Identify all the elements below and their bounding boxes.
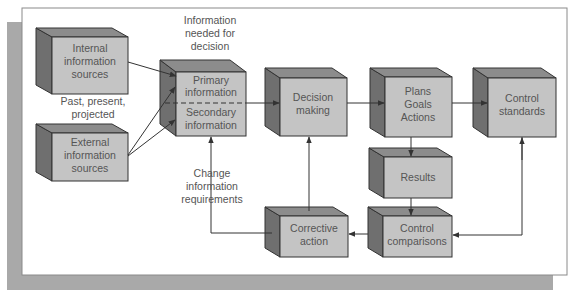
label-info-needed-2: needed for (185, 27, 236, 39)
box-corrective-action: Corrective action (265, 207, 348, 257)
box-external-sources: External information sources (36, 124, 128, 181)
box-corrective-line2: action (300, 235, 328, 247)
box-plans-line1: Plans (405, 85, 431, 97)
box-plans-line3: Actions (401, 111, 435, 123)
box-secondary-line1: Secondary (186, 106, 237, 118)
box-information: Primary information Secondary informatio… (160, 60, 246, 136)
box-internal-sources: Internal information sources (36, 28, 128, 94)
label-info-needed-1: Information (184, 14, 237, 26)
box-external-line3: sources (72, 162, 109, 174)
label-change-2: information (186, 180, 238, 192)
box-decision-making: Decision making (265, 68, 347, 136)
box-standards-line2: standards (499, 105, 545, 117)
box-decision-line1: Decision (293, 91, 333, 103)
label-change-1: Change (194, 167, 231, 179)
label-timeframe-1: Past, present, (61, 95, 126, 107)
box-control-comparisons: Control comparisons (368, 207, 452, 257)
control-process-diagram: Internal information sources External in… (0, 0, 577, 297)
label-info-needed-3: decision (191, 40, 230, 52)
box-primary-line1: Primary (193, 74, 230, 86)
label-info-needed: Information needed for decision (184, 14, 237, 52)
box-external-line1: External (71, 136, 110, 148)
box-secondary-line2: information (185, 119, 237, 131)
box-results-line1: Results (400, 171, 435, 183)
box-comparisons-line2: comparisons (387, 235, 447, 247)
label-change-3: requirements (181, 193, 242, 205)
box-primary-line2: information (185, 86, 237, 98)
box-corrective-line1: Corrective (290, 222, 338, 234)
box-decision-line2: making (296, 104, 330, 116)
box-external-line2: information (64, 149, 116, 161)
box-comparisons-line1: Control (400, 222, 434, 234)
label-timeframe-2: projected (71, 108, 114, 120)
box-plans-line2: Goals (404, 98, 431, 110)
box-standards-line1: Control (505, 92, 539, 104)
box-internal-line3: sources (72, 68, 109, 80)
box-internal-line1: Internal (72, 42, 107, 54)
box-internal-line2: information (64, 55, 116, 67)
